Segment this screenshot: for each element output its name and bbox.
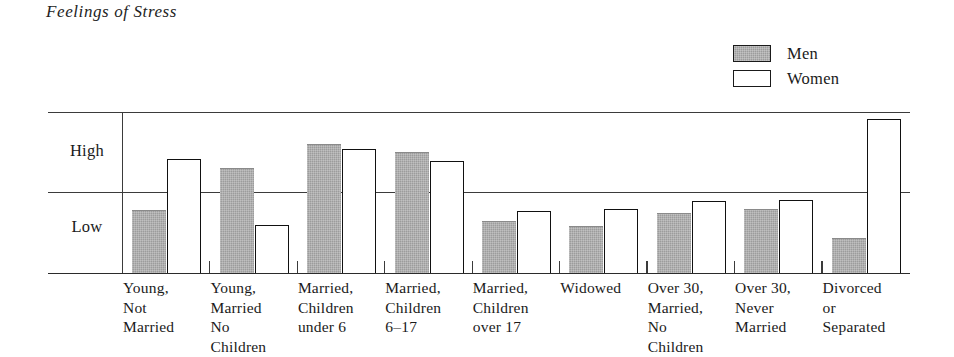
bar-group bbox=[735, 112, 822, 273]
bar-men[interactable] bbox=[307, 144, 341, 273]
x-axis-label-line: under 6 bbox=[298, 317, 385, 337]
legend-swatch-women-icon bbox=[733, 70, 771, 87]
x-axis-label-line: Young, bbox=[210, 278, 297, 298]
y-axis-tick-high: High bbox=[56, 141, 118, 161]
x-axis-label-line: Children bbox=[298, 298, 385, 318]
x-axis-label: Over 30,Married,NoChildren bbox=[648, 278, 735, 356]
bar-men[interactable] bbox=[569, 226, 603, 273]
x-axis-label-line: Married bbox=[735, 317, 822, 337]
x-axis-label-line: Children bbox=[385, 298, 472, 318]
x-axis-label-line: Children bbox=[210, 337, 297, 357]
bar-men[interactable] bbox=[395, 152, 429, 273]
bar-men[interactable] bbox=[482, 221, 516, 273]
x-axis-label-line: Never bbox=[735, 298, 822, 318]
x-axis-label: Widowed bbox=[560, 278, 647, 298]
bar-men[interactable] bbox=[132, 210, 166, 273]
bar-women[interactable] bbox=[430, 161, 464, 273]
page-title: Feelings of Stress bbox=[46, 2, 177, 22]
bar-group bbox=[648, 112, 735, 273]
bar-women[interactable] bbox=[517, 211, 551, 273]
bar-women[interactable] bbox=[342, 149, 376, 273]
x-axis-label: DivorcedorSeparated bbox=[823, 278, 910, 337]
bar-group bbox=[473, 112, 560, 273]
x-axis-label-line: Separated bbox=[823, 317, 910, 337]
x-axis-label: Young,NotMarried bbox=[123, 278, 210, 337]
x-axis-label-line: 6–17 bbox=[385, 317, 472, 337]
x-axis-label-line: Married, bbox=[648, 298, 735, 318]
chart-legend: Men Women bbox=[733, 41, 903, 91]
x-axis-label-line: No bbox=[210, 317, 297, 337]
bar-women[interactable] bbox=[867, 119, 901, 273]
legend-item-men: Men bbox=[733, 41, 903, 66]
x-axis-label-line: Married, bbox=[385, 278, 472, 298]
bar-men[interactable] bbox=[832, 238, 866, 273]
x-axis-label-line: Children bbox=[473, 298, 560, 318]
bar-group bbox=[560, 112, 647, 273]
bar-group bbox=[123, 112, 210, 273]
legend-label-men: Men bbox=[787, 44, 818, 64]
bars-layer bbox=[123, 112, 910, 273]
bar-men[interactable] bbox=[744, 209, 778, 273]
x-axis-label-line: Over 30, bbox=[648, 278, 735, 298]
x-axis-label-line: Married bbox=[210, 298, 297, 318]
plot-area: High Low bbox=[48, 112, 910, 274]
x-axis-label: Over 30,NeverMarried bbox=[735, 278, 822, 337]
bar-men[interactable] bbox=[657, 213, 691, 273]
legend-swatch-men-icon bbox=[733, 45, 771, 62]
x-axis-label-line: Married, bbox=[473, 278, 560, 298]
bar-women[interactable] bbox=[779, 200, 813, 273]
x-axis-label-line: Widowed bbox=[560, 278, 647, 298]
x-axis-label-line: Over 30, bbox=[735, 278, 822, 298]
x-axis-label: Married,Childrenover 17 bbox=[473, 278, 560, 337]
bar-women[interactable] bbox=[692, 201, 726, 273]
x-axis-label: Married,Children6–17 bbox=[385, 278, 472, 337]
y-axis-tick-low: Low bbox=[56, 217, 118, 237]
bar-men[interactable] bbox=[220, 168, 254, 273]
x-axis-label: Young,MarriedNoChildren bbox=[210, 278, 297, 356]
x-axis-label-line: Married, bbox=[298, 278, 385, 298]
x-axis-label: Married,Childrenunder 6 bbox=[298, 278, 385, 337]
x-axis-label-line: No bbox=[648, 317, 735, 337]
legend-label-women: Women bbox=[787, 69, 839, 89]
x-axis-labels: Young,NotMarriedYoung,MarriedNoChildrenM… bbox=[123, 278, 913, 357]
bar-women[interactable] bbox=[255, 225, 289, 273]
bar-group bbox=[385, 112, 472, 273]
x-axis-label-line: Young, bbox=[123, 278, 210, 298]
bar-group bbox=[298, 112, 385, 273]
x-axis-label-line: Not bbox=[123, 298, 210, 318]
bar-group bbox=[210, 112, 297, 273]
bar-women[interactable] bbox=[167, 159, 201, 273]
bar-group bbox=[823, 112, 910, 273]
x-axis-label-line: Divorced bbox=[823, 278, 910, 298]
legend-item-women: Women bbox=[733, 66, 903, 91]
bar-women[interactable] bbox=[604, 209, 638, 273]
x-axis-label-line: Married bbox=[123, 317, 210, 337]
axis-baseline bbox=[48, 273, 910, 274]
x-axis-label-line: over 17 bbox=[473, 317, 560, 337]
x-axis-label-line: Children bbox=[648, 337, 735, 357]
x-axis-label-line: or bbox=[823, 298, 910, 318]
